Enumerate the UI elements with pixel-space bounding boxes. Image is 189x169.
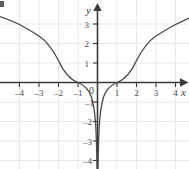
y-tick-label-3: 3: [85, 20, 90, 30]
y-tick-label-1: 1: [85, 59, 90, 69]
y-tick-label--2: –2: [82, 117, 92, 127]
x-tick-label--2: –2: [53, 88, 63, 98]
x-tick-label-3: 3: [154, 88, 159, 98]
x-axis: [0, 78, 189, 86]
y-tick-label-2: 2: [85, 39, 90, 49]
y-tick-label--4: –4: [82, 156, 93, 166]
y-axis-label: y: [85, 4, 91, 16]
logarithm-graph-figure: –4 –3 –2 –1 1 2 3 4 3 2 1 –1 –2 –3 –4 0 …: [0, 0, 189, 169]
origin-label: 0: [89, 85, 94, 96]
y-tick-label--3: –3: [82, 137, 93, 147]
x-tick-label--4: –4: [14, 88, 25, 98]
horizontal-gridlines: [0, 24, 189, 161]
x-tick-label-1: 1: [115, 88, 120, 98]
x-tick-label-4: 4: [173, 88, 178, 98]
x-tick-label-2: 2: [134, 88, 139, 98]
x-tick-label--1: –1: [73, 88, 83, 98]
graph-canvas: –4 –3 –2 –1 1 2 3 4 3 2 1 –1 –2 –3 –4 0 …: [0, 0, 189, 169]
x-tick-label--3: –3: [34, 88, 45, 98]
y-axis: [93, 3, 101, 169]
x-axis-label: x: [180, 86, 186, 98]
y-tick-label--1: –1: [84, 98, 94, 108]
